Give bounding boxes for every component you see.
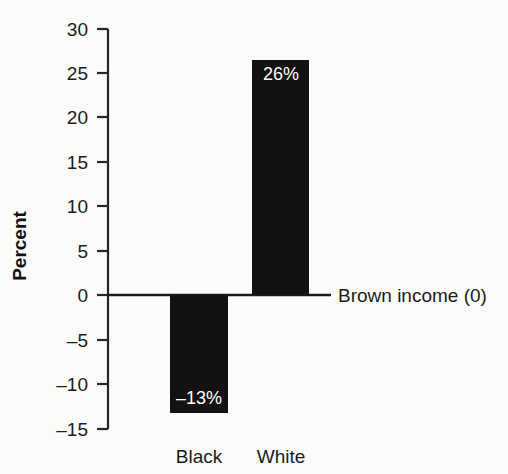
bar-value-label-black: –13% xyxy=(176,388,222,408)
y-tick-label-5: 5 xyxy=(77,241,88,262)
bar-white[interactable] xyxy=(252,60,309,295)
bar-value-label-white: 26% xyxy=(263,64,299,84)
bar-chart: 30 25 20 15 10 5 0 –5 –10 –15 Percent –1… xyxy=(0,0,508,474)
y-axis-title: Percent xyxy=(9,210,30,280)
y-tick-label-minus-10: –10 xyxy=(56,374,88,395)
y-tick-label-20: 20 xyxy=(67,107,88,128)
chart-canvas: 30 25 20 15 10 5 0 –5 –10 –15 Percent –1… xyxy=(0,0,508,474)
y-tick-label-15: 15 xyxy=(67,152,88,173)
bar-series xyxy=(170,60,309,413)
y-tick-label-30: 30 xyxy=(67,19,88,40)
y-tick-label-25: 25 xyxy=(67,63,88,84)
y-tick-label-minus-15: –15 xyxy=(56,419,88,440)
y-tick-label-10: 10 xyxy=(67,196,88,217)
y-axis-ticks xyxy=(97,29,108,429)
y-tick-label-minus-5: –5 xyxy=(67,330,88,351)
baseline-annotation: Brown income (0) xyxy=(338,285,487,306)
y-tick-label-0: 0 xyxy=(77,285,88,306)
x-category-label-black: Black xyxy=(176,446,223,467)
x-category-label-white: White xyxy=(257,446,306,467)
y-axis-tick-labels: 30 25 20 15 10 5 0 –5 –10 –15 xyxy=(56,19,88,440)
